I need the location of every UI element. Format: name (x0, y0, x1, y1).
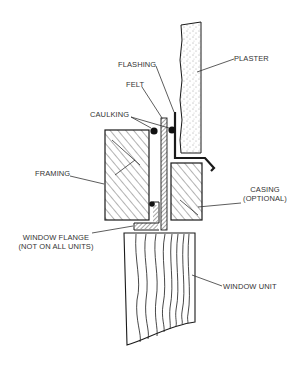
label-plaster: PLASTER (234, 54, 269, 63)
label-casing: CASING (OPTIONAL) (240, 185, 290, 203)
label-caulking: CAULKING (90, 110, 129, 119)
label-window-unit: WINDOW UNIT (223, 282, 277, 291)
label-framing: FRAMING (35, 169, 70, 178)
framing-block (105, 130, 149, 220)
label-felt: FELT (126, 80, 144, 89)
felt-strip (161, 118, 167, 230)
plaster-panel (180, 22, 201, 153)
window-unit (124, 233, 195, 345)
label-casing-line1: CASING (240, 185, 290, 194)
label-window-flange-line2: (NOT ON ALL UNITS) (14, 242, 98, 251)
label-casing-line2: (OPTIONAL) (240, 194, 290, 203)
label-window-flange-line1: WINDOW FLANGE (14, 233, 98, 242)
label-window-flange: WINDOW FLANGE (NOT ON ALL UNITS) (14, 233, 98, 251)
label-flashing: FLASHING (118, 60, 156, 69)
casing-block (171, 163, 202, 220)
